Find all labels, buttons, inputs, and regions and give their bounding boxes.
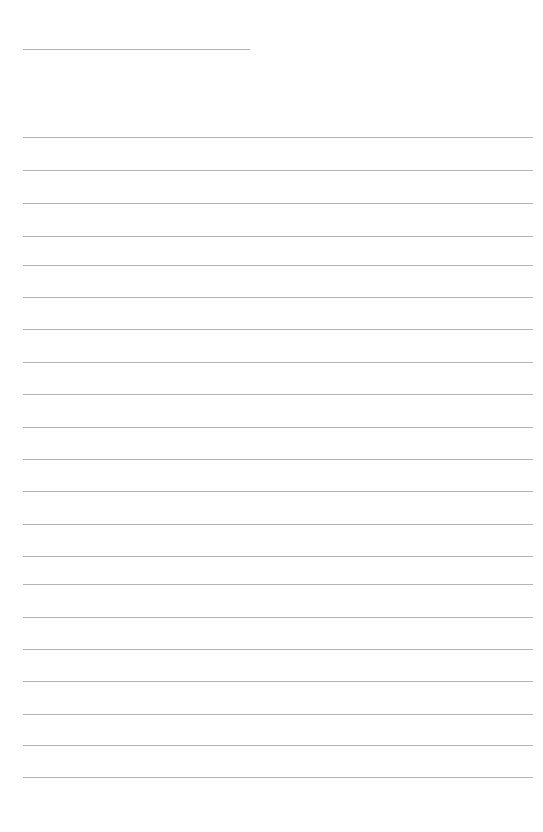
title-write-slot[interactable] (23, 23, 250, 53)
ruled-line-write-slot[interactable] (23, 336, 533, 366)
ruled-line-write-slot[interactable] (23, 623, 533, 653)
ruled-line-write-slot[interactable] (23, 303, 533, 333)
ruled-line-write-slot[interactable] (23, 210, 533, 240)
ruled-line-write-slot[interactable] (23, 401, 533, 431)
ruled-line-write-slot[interactable] (23, 368, 533, 398)
ruled-line-write-slot[interactable] (23, 498, 533, 528)
ruled-line-write-slot[interactable] (23, 688, 533, 718)
ruled-line-write-slot[interactable] (23, 558, 533, 588)
ruled-line-write-slot[interactable] (23, 591, 533, 621)
ruled-line-write-slot[interactable] (23, 433, 533, 463)
ruled-line-write-slot[interactable] (23, 111, 533, 141)
ruled-line-write-slot[interactable] (23, 144, 533, 174)
ruled-line-write-slot[interactable] (23, 177, 533, 207)
ruled-line-write-slot[interactable] (23, 751, 533, 781)
ruled-line-write-slot[interactable] (23, 271, 533, 301)
ruled-line-write-slot[interactable] (23, 239, 533, 269)
ruled-note-page (0, 0, 543, 832)
ruled-line-write-slot[interactable] (23, 719, 533, 749)
ruled-line-write-slot[interactable] (23, 530, 533, 560)
ruled-line-write-slot[interactable] (23, 465, 533, 495)
ruled-line-write-slot[interactable] (23, 655, 533, 685)
